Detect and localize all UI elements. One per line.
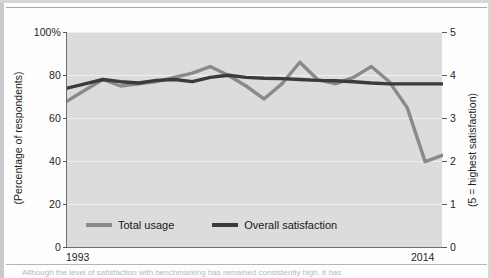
x-axis-label-end: 2014 [411,251,434,263]
left-tick-label-40: 40 [49,155,61,167]
right-axis-title: (5 = highest satisfaction) [466,93,478,207]
left-tick-label-20: 20 [49,198,61,210]
left-axis-title: (Percentage of respondents) [12,71,24,204]
plot-area: 100% 80 60 40 20 0 5 4 3 2 1 0 [66,32,442,248]
right-tick-label-4: 4 [450,69,456,81]
legend-item-overall-satisfaction: Overall satisfaction [212,219,337,231]
legend-item-total-usage: Total usage [86,219,174,231]
series-canvas [67,32,443,248]
legend-swatch-total-usage [86,223,112,227]
left-tick-label-100: 100% [34,26,61,38]
legend-swatch-overall-satisfaction [212,223,238,227]
page-edge-left [0,0,4,278]
right-tick-label-0: 0 [450,241,456,253]
left-tick-label-80: 80 [49,69,61,81]
left-tick-label-60: 60 [49,112,61,124]
chart-legend: Total usage Overall satisfaction [86,219,337,231]
horizontal-rule-bottom [6,264,487,265]
x-axis-label-start: 1993 [66,251,89,263]
horizontal-rule-top [6,7,487,8]
right-tick-label-3: 3 [450,112,456,124]
right-tick-label-2: 2 [450,155,456,167]
left-tick-label-0: 0 [55,241,61,253]
right-tick-label-1: 1 [450,198,456,210]
figure-caption: Although the level of satisfaction with … [22,268,474,277]
right-tick-label-5: 5 [450,26,456,38]
page-edge-top [0,0,491,3]
figure-container: (Percentage of respondents) (5 = highest… [0,0,491,278]
legend-label-overall-satisfaction: Overall satisfaction [244,219,337,231]
legend-label-total-usage: Total usage [118,219,174,231]
